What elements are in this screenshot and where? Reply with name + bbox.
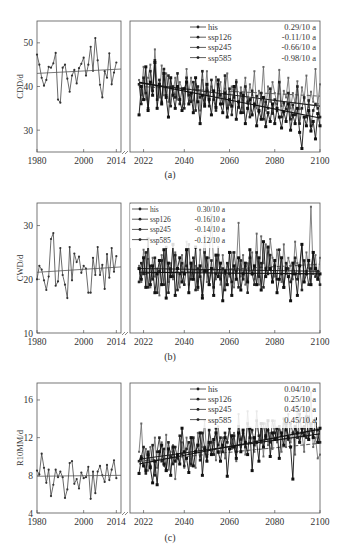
data-point-ssp245 [208, 429, 211, 432]
data-point-ssp245 [176, 72, 179, 75]
legend-trend-value: -0.12/10 a [195, 236, 226, 245]
data-point-ssp245 [312, 109, 315, 112]
data-point-his [45, 482, 47, 484]
data-point-his [106, 253, 108, 255]
data-point-ssp585 [208, 98, 211, 101]
data-point-ssp245 [296, 85, 299, 88]
data-point-ssp585 [312, 436, 315, 439]
data-point-ssp126 [161, 441, 163, 443]
legend-trend-value: -0.66/10 a [282, 42, 317, 52]
data-point-ssp585 [196, 444, 199, 447]
data-point-ssp585 [210, 267, 213, 270]
data-point-ssp585 [169, 474, 172, 477]
data-point-ssp126 [215, 76, 217, 78]
data-point-ssp245 [188, 441, 191, 444]
data-point-ssp585 [210, 453, 213, 456]
data-point-ssp585 [312, 120, 315, 123]
data-point-ssp245 [235, 81, 238, 84]
data-point-ssp585 [300, 147, 303, 150]
data-point-ssp245 [210, 79, 213, 82]
data-point-his [62, 274, 64, 276]
data-point-ssp585 [140, 85, 143, 88]
data-point-ssp126 [301, 86, 303, 88]
data-point-ssp585 [205, 83, 208, 86]
data-point-ssp585 [291, 262, 294, 265]
data-point-his [57, 99, 59, 101]
data-point-ssp585 [226, 116, 229, 119]
data-point-ssp585 [271, 102, 274, 105]
data-point-ssp126 [244, 77, 246, 79]
data-point-ssp245 [269, 87, 272, 90]
data-point-ssp126 [258, 90, 260, 92]
data-point-ssp585 [285, 267, 288, 270]
data-point-ssp126 [256, 107, 258, 109]
data-point-ssp126 [165, 434, 167, 436]
x-tick-label: 2080 [265, 337, 284, 347]
data-point-ssp585 [237, 431, 240, 434]
data-point-his [50, 495, 52, 497]
axis-break-mark [122, 332, 128, 335]
data-point-ssp245 [183, 283, 186, 286]
legend-trend-value: 0.04/10 a [284, 384, 316, 394]
data-point-ssp585 [224, 436, 227, 439]
data-point-ssp585 [246, 107, 249, 110]
data-point-ssp126 [197, 289, 199, 291]
data-point-ssp585 [266, 246, 269, 249]
data-point-ssp245 [316, 107, 319, 110]
data-point-ssp126 [260, 235, 262, 237]
data-point-ssp585 [167, 262, 170, 265]
data-point-ssp245 [314, 103, 317, 106]
data-point-ssp585 [296, 107, 299, 110]
data-point-ssp245 [185, 76, 188, 79]
data-point-his [45, 79, 47, 81]
data-point-ssp126 [177, 99, 179, 101]
data-point-ssp585 [196, 100, 199, 103]
data-point-ssp126 [233, 432, 235, 434]
data-point-ssp585 [244, 262, 247, 265]
data-point-ssp126 [149, 64, 151, 66]
data-point-ssp585 [176, 453, 179, 456]
data-point-ssp126 [319, 83, 321, 85]
data-point-ssp245 [145, 472, 148, 475]
data-point-ssp245 [264, 100, 267, 103]
data-point-ssp126 [149, 446, 151, 448]
data-point-his [73, 483, 75, 485]
data-point-ssp126 [294, 454, 296, 456]
data-point-his [111, 247, 113, 249]
data-point-ssp585 [217, 275, 220, 278]
data-point-ssp126 [272, 257, 274, 259]
data-point-ssp245 [185, 448, 188, 451]
data-point-ssp126 [158, 96, 160, 98]
y-axis-label: R10MM/d [15, 429, 25, 466]
data-point-ssp126 [258, 284, 260, 286]
data-point-ssp126 [238, 222, 240, 224]
data-point-ssp245 [319, 283, 322, 286]
data-point-ssp585 [298, 131, 301, 134]
data-point-ssp126 [208, 257, 210, 259]
data-point-ssp126 [294, 241, 296, 243]
data-point-ssp585 [208, 283, 211, 286]
legend-marker-icon [197, 398, 200, 401]
data-point-ssp126 [138, 451, 140, 453]
data-point-ssp245 [278, 81, 281, 84]
data-point-ssp245 [199, 459, 202, 462]
data-point-ssp585 [248, 248, 251, 251]
data-point-ssp126 [231, 251, 233, 253]
data-point-ssp585 [138, 267, 141, 270]
x-tick-label: 1980 [28, 337, 47, 347]
data-point-ssp585 [309, 130, 312, 133]
data-point-ssp585 [255, 283, 258, 286]
x-tick-label: 2000 [74, 517, 93, 527]
data-point-ssp585 [294, 122, 297, 125]
data-point-ssp585 [178, 463, 181, 466]
data-point-his [113, 459, 115, 461]
data-point-ssp585 [237, 256, 240, 259]
data-point-ssp126 [317, 457, 319, 459]
data-point-ssp245 [154, 256, 157, 259]
x-tick-label: 2022 [134, 337, 153, 347]
legend-series-name: his [150, 205, 159, 214]
data-point-ssp126 [249, 83, 251, 85]
data-point-ssp585 [280, 126, 283, 129]
data-point-ssp126 [262, 455, 264, 457]
data-point-his [59, 102, 61, 104]
